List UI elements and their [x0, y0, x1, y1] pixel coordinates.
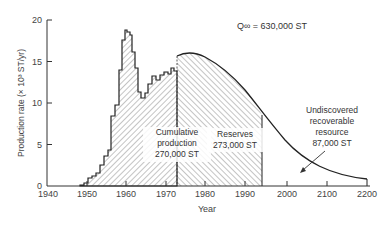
y-tick-label: 15: [32, 57, 42, 67]
undiscovered-label-line4: 87,000 ST: [312, 138, 351, 148]
x-tick-label: 1980: [195, 189, 215, 199]
x-tick-label: 1940: [38, 189, 58, 199]
undiscovered-label-line3: resource: [315, 127, 348, 137]
y-tick-label: 5: [37, 140, 42, 150]
total-resource-label: Q∞ = 630,000 ST: [237, 21, 308, 31]
x-tick-label: 2000: [277, 189, 297, 199]
cumulative-production-area: [80, 30, 177, 186]
x-tick-label: 2100: [317, 189, 337, 199]
x-tick-label: 1950: [77, 189, 97, 199]
production-chart: 20 15 10 5 0 1940 1950 1960 1970 1980 19…: [0, 0, 392, 225]
y-tick-label: 20: [32, 15, 42, 25]
reserves-area: [177, 53, 262, 186]
undiscovered-label-line2: recoverable: [310, 116, 355, 126]
reserves-label-line1: Reserves: [217, 129, 253, 139]
x-tick-label: 2200: [357, 189, 377, 199]
x-axis-label: Year: [198, 204, 216, 214]
x-tick-label: 1990: [235, 189, 255, 199]
y-tick-label: 10: [32, 98, 42, 108]
x-tick-label: 1970: [156, 189, 176, 199]
x-tick-label: 1960: [116, 189, 136, 199]
y-ticks: [47, 20, 52, 145]
y-axis-label: Production rate (× 10³ ST/yr): [16, 49, 26, 157]
undiscovered-label-line1: Undiscovered: [306, 105, 358, 115]
arrow-icon: [300, 151, 325, 173]
cumulative-label-line2: production: [157, 138, 197, 148]
cumulative-label-line3: 270,000 ST: [155, 149, 199, 159]
cumulative-label-line1: Cumulative: [156, 127, 199, 137]
reserves-label-line2: 273,000 ST: [213, 140, 257, 150]
